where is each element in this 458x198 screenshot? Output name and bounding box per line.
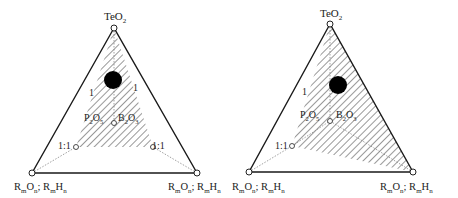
ratio-label-left: 1:1 [275,140,288,151]
inner-point-marker [112,121,117,126]
glass-forming-dot [104,71,122,89]
edge-label-left: 1 [302,86,307,97]
bottom-left-label: RmOn; RmHn [232,181,285,195]
vertex-marker-bottom-right [410,169,416,175]
bottom-right-label: RmOn; RmHn [168,181,221,195]
ratio-label-left: 1:1 [58,140,71,151]
vertex-marker-bottom-right [194,170,200,176]
bottom-left-label: RmOn; RmHn [14,181,67,195]
vertex-marker-apex [327,21,333,27]
glass-forming-dot [329,76,347,94]
ternary-diagrams: TeO2 1 1 P2O5 B2O3 1:1 1:1 RmOn; RmHn Rm… [0,0,458,198]
apex-label: TeO2 [104,10,127,25]
inner-point-marker [328,119,333,124]
edge-label-left: 1 [89,87,94,98]
vertex-marker-bottom-left [246,169,252,175]
ratio-marker-left [290,144,295,149]
ratio-label-right: 1:1 [152,140,165,151]
vertex-marker-bottom-left [29,170,35,176]
ratio-marker-left [74,145,79,150]
edge-label-right: 1 [133,82,138,93]
left-ternary-diagram: TeO2 1 1 P2O5 B2O3 1:1 1:1 RmOn; RmHn Rm… [14,10,221,195]
apex-label: TeO2 [320,7,343,22]
right-ternary-diagram: TeO2 1 P2O5 B2O3 1:1 RmOn; RmHn RmOn; Rm… [232,7,433,195]
bottom-right-label: RmOn; RmHn [380,181,433,195]
vertex-marker-apex [111,25,117,31]
hatched-glass-region [292,24,413,172]
